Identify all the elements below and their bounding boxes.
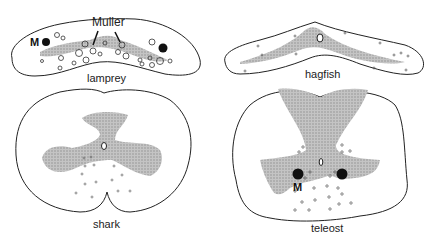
teleost-central-canal bbox=[319, 159, 323, 166]
mauthner-cell-left bbox=[42, 38, 50, 46]
teleost-section bbox=[233, 89, 408, 222]
hagfish-central-canal bbox=[317, 34, 323, 42]
shark-central-canal bbox=[102, 143, 107, 150]
teleost-mauthner-left bbox=[293, 169, 304, 180]
teleost-label: teleost bbox=[311, 222, 343, 234]
teleost-mauthner-right bbox=[337, 169, 348, 180]
shark-label: shark bbox=[93, 218, 120, 230]
mauthner-cell-right bbox=[159, 44, 168, 53]
muller-label: Muller bbox=[92, 15, 125, 29]
hagfish-section bbox=[225, 22, 424, 74]
teleost-m-label: M bbox=[293, 181, 302, 193]
lamprey-m-label: M bbox=[30, 36, 39, 48]
spinal-cord-diagram bbox=[0, 0, 430, 240]
lamprey-label: lamprey bbox=[87, 72, 126, 84]
shark-section bbox=[16, 89, 191, 212]
hagfish-label: hagfish bbox=[305, 68, 340, 80]
